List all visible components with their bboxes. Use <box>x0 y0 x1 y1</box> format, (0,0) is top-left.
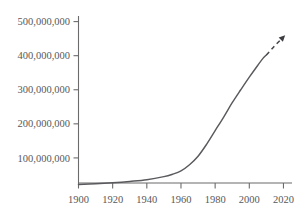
x-tick-label: 1960 <box>170 194 191 205</box>
data-line-projected <box>266 39 281 55</box>
x-axis-tick-marks <box>79 183 284 189</box>
y-tick-label: 400,000,000 <box>18 50 71 61</box>
y-tick-label: 200,000,000 <box>18 118 71 129</box>
y-tick-label: 500,000,000 <box>18 16 71 27</box>
y-axis-tick-labels: 100,000,000200,000,000300,000,000400,000… <box>18 16 71 163</box>
x-axis-tick-labels: 1900192019401960198020002020 <box>68 194 294 205</box>
x-tick-label: 1980 <box>205 194 226 205</box>
y-tick-label: 300,000,000 <box>18 84 71 95</box>
x-tick-label: 2020 <box>273 194 294 205</box>
chart-canvas: 100,000,000200,000,000300,000,000400,000… <box>0 0 297 214</box>
x-tick-label: 1900 <box>68 194 89 205</box>
y-tick-label: 100,000,000 <box>18 153 71 164</box>
line-chart: 100,000,000200,000,000300,000,000400,000… <box>0 0 297 214</box>
data-line-observed <box>79 55 267 185</box>
x-tick-label: 2000 <box>239 194 260 205</box>
y-axis-tick-marks <box>74 22 79 158</box>
x-tick-label: 1940 <box>136 194 157 205</box>
x-tick-label: 1920 <box>102 194 123 205</box>
